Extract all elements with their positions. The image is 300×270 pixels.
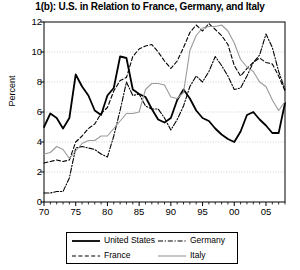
legend-item: United States [67, 236, 153, 245]
legend-line-swatch [71, 237, 101, 245]
legend-item: France [67, 251, 153, 260]
legend-item: Italy [153, 251, 237, 260]
chart-figure: 1(b): U.S. in Relation to France, German… [0, 0, 300, 270]
legend-label: United States [104, 236, 155, 245]
legend: United StatesGermanyFranceItaly [66, 232, 238, 264]
legend-line-swatch [157, 252, 187, 260]
legend-line-swatch [157, 237, 187, 245]
legend-line-swatch [71, 252, 101, 260]
legend-item: Germany [153, 236, 237, 245]
legend-label: France [104, 251, 130, 260]
legend-label: Italy [190, 251, 206, 260]
plot-area [0, 0, 300, 270]
legend-label: Germany [190, 236, 225, 245]
series-line-united-states [44, 57, 285, 143]
series-line-italy [44, 25, 285, 159]
